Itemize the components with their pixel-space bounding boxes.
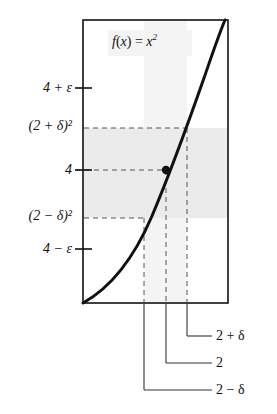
- figure-canvas: [0, 0, 277, 414]
- xlabel-two-minus-delta: 2 − δ: [216, 383, 245, 397]
- plot-title-exponent: 2: [153, 32, 158, 42]
- ylabel-two-minus-delta-squared-text: (2 − δ)²: [29, 208, 72, 223]
- xlabel-two-minus-delta-text: 2 − δ: [216, 382, 245, 397]
- ylabel-4-minus-epsilon: 4 − ε: [0, 242, 72, 256]
- ylabel-4-plus-epsilon: 4 + ε: [0, 81, 72, 95]
- point-2-4: [162, 166, 170, 174]
- xlabel-two: 2: [216, 356, 223, 370]
- ylabel-two-plus-delta-squared-text: (2 + δ)²: [29, 118, 72, 133]
- plot-title-equals: =: [131, 34, 146, 49]
- ylabel-four: 4: [0, 163, 72, 177]
- delta-band-shade: [144, 21, 187, 302]
- xlabel-two-text: 2: [216, 355, 223, 370]
- ylabel-two-plus-delta-squared: (2 + δ)²: [0, 119, 72, 133]
- plot-title: f(x) = x2: [112, 33, 157, 49]
- ylabel-4-minus-epsilon-text: 4 − ε: [43, 241, 72, 256]
- epsilon-delta-figure: f(x) = x2 4 + ε (2 + δ)² 4 (2 − δ)² 4 − …: [0, 0, 277, 414]
- ylabel-four-text: 4: [65, 162, 72, 177]
- ylabel-two-minus-delta-squared: (2 − δ)²: [0, 209, 72, 223]
- ylabel-4-plus-epsilon-text: 4 + ε: [43, 80, 72, 95]
- xlabel-two-plus-delta-text: 2 + δ: [216, 328, 245, 343]
- xlabel-two-plus-delta: 2 + δ: [216, 329, 245, 343]
